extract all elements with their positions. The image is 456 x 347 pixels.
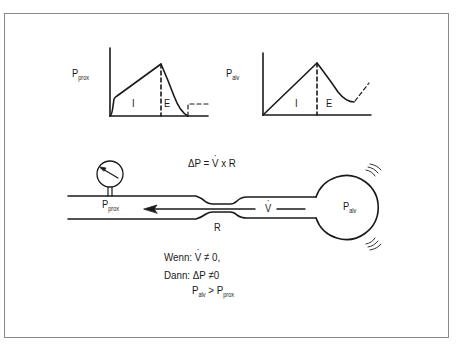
graph-proximal-ylabel: Pprox [72, 68, 89, 82]
condition-line-2: Dann: ΔP ≠0 [164, 270, 219, 282]
graph-alveolar-pressure [263, 53, 371, 115]
condition-line-1: Wenn: V ≠ 0, [164, 252, 220, 264]
pressure-curve [110, 64, 188, 116]
resistance-label: R [214, 222, 221, 233]
gauge-label: Pprox [102, 199, 119, 213]
phase-inspiration-label: I [132, 98, 135, 109]
condition-line-3: Palv > Pprox [192, 285, 234, 299]
continuation-dashed [355, 83, 369, 101]
peep-level [188, 104, 208, 116]
pressure-gauge-icon [97, 161, 123, 187]
pressure-curve [263, 63, 354, 115]
flow-label: V [265, 203, 271, 214]
phase-expiration-label: E [164, 98, 170, 109]
graph-proximal-pressure [110, 48, 208, 116]
graph-alveolar-ylabel: Palv [226, 68, 239, 82]
phase-inspiration-label: I [295, 98, 298, 109]
tube-lower-wall [68, 212, 316, 219]
formula-delta-p: ΔP = V x R [188, 158, 236, 170]
phase-expiration-label: E [326, 98, 332, 109]
alveolus-label: Palv [343, 201, 356, 215]
